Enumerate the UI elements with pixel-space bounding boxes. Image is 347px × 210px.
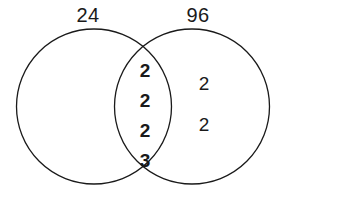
venn-diagram-canvas: 24 96 2 2 2 3 2 2 — [0, 0, 347, 210]
right-set-label: 96 — [168, 5, 228, 25]
venn-circles-svg — [0, 0, 347, 210]
intersection-factor: 2 — [140, 121, 151, 140]
right-only-region: 2 2 — [190, 74, 218, 134]
right-only-factor: 2 — [199, 74, 210, 93]
intersection-factor: 3 — [140, 151, 151, 170]
intersection-factor: 2 — [140, 91, 151, 110]
left-set-label: 24 — [58, 5, 118, 25]
intersection-factor: 2 — [140, 61, 151, 80]
intersection-region: 2 2 2 3 — [131, 61, 159, 170]
right-only-factor: 2 — [199, 115, 210, 134]
